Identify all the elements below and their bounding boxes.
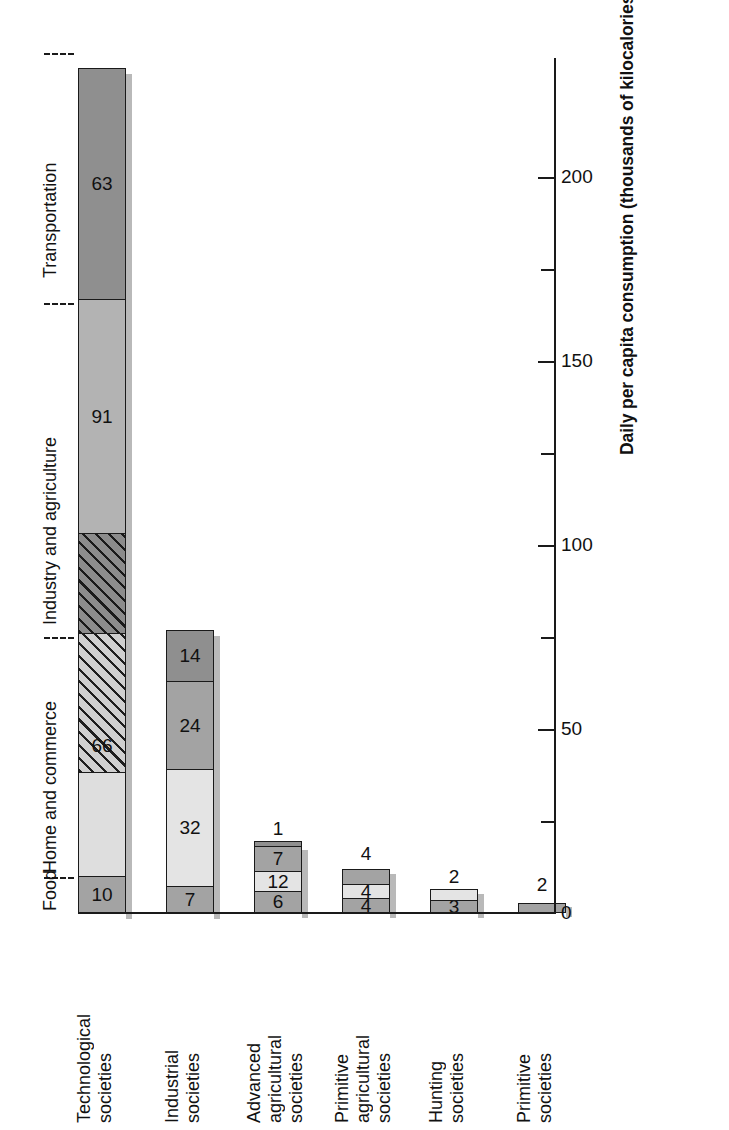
segment-home-and-commerce[interactable]: 32 — [166, 769, 214, 887]
y-tick-175 — [541, 269, 555, 271]
x-label-primitive-societies: Primitive societies — [514, 933, 632, 1123]
y-tick-label-150: 150 — [561, 351, 593, 370]
bar-advanced-agricultural-societies[interactable]: 7 12 6 — [254, 845, 302, 913]
y-tick-125 — [541, 453, 555, 455]
bar-top-label-advanced-agricultural: 1 — [254, 818, 302, 840]
bar-hunting-societies[interactable]: 3 — [430, 889, 478, 913]
y-axis-title: Daily per capita consumption (thousands … — [617, 35, 638, 455]
segment-food[interactable]: 6 — [254, 891, 302, 913]
bar-technological-societies[interactable]: 63 91 66 10 — [78, 68, 126, 913]
stacked-bar-chart: Transportation Industry and agriculture … — [0, 0, 729, 1130]
bar-top-label-primitive-agricultural: 4 — [342, 843, 390, 865]
band-tick-transportation-top — [44, 53, 74, 55]
segment-transportation[interactable]: 14 — [166, 630, 214, 682]
y-tick-100 — [538, 545, 555, 547]
y-axis-line — [554, 58, 556, 914]
segment-home-and-commerce[interactable]: 4 — [342, 884, 390, 899]
segment-home-and-commerce-hatched[interactable]: 66 — [78, 633, 126, 773]
segment-industry-and-agriculture[interactable]: 91 — [78, 299, 126, 534]
y-tick-label-0: 0 — [561, 903, 572, 922]
segment-home-and-commerce[interactable]: 12 — [254, 871, 302, 892]
y-tick-200 — [538, 177, 555, 179]
bar-industrial-societies[interactable]: 14 24 32 7 — [166, 630, 214, 913]
band-label-transportation: Transportation — [40, 163, 61, 278]
bar-shadow — [478, 894, 484, 918]
y-tick-label-200: 200 — [561, 167, 593, 186]
bar-top-label-primitive: 2 — [518, 874, 566, 896]
segment-industry-and-agriculture[interactable] — [342, 869, 390, 885]
y-tick-label-50: 50 — [561, 719, 582, 738]
band-label-home-and-commerce: Home and commerce — [40, 701, 61, 873]
x-axis-baseline — [78, 912, 555, 914]
bar-top-label-hunting: 2 — [430, 866, 478, 888]
chart-page: Transportation Industry and agriculture … — [0, 0, 729, 1130]
segment-food[interactable]: 7 — [166, 886, 214, 913]
band-label-food: Food — [40, 870, 61, 911]
y-tick-25 — [541, 821, 555, 823]
band-label-industry-and-agriculture: Industry and agriculture — [40, 437, 61, 625]
bar-shadow — [126, 74, 132, 919]
bar-primitive-agricultural-societies[interactable]: 4 4 — [342, 869, 390, 913]
y-tick-50 — [538, 729, 555, 731]
segment-industry-and-agriculture[interactable]: 24 — [166, 681, 214, 770]
segment-home-and-commerce[interactable] — [78, 772, 126, 877]
segment-industry-and-agriculture-hatched[interactable] — [78, 533, 126, 634]
segment-transportation[interactable]: 63 — [78, 68, 126, 300]
band-tick-industry-bottom — [44, 637, 74, 639]
y-tick-label-100: 100 — [561, 535, 593, 554]
segment-industry-and-agriculture[interactable]: 7 — [254, 846, 302, 872]
y-tick-75 — [541, 637, 555, 639]
segment-food[interactable]: 4 — [342, 898, 390, 913]
y-tick-150 — [538, 361, 555, 363]
bar-shadow — [302, 850, 308, 918]
bar-shadow — [214, 636, 220, 919]
band-tick-transportation-bottom — [44, 303, 74, 305]
segment-food[interactable]: 10 — [78, 876, 126, 913]
